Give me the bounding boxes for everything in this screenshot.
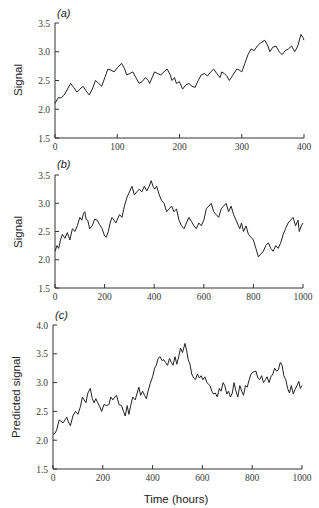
x-tick-label: 0 [53,142,58,152]
x-tick-label: 800 [246,292,261,302]
figure-canvas: (a) Signal 1.52.02.53.03.50100200300400 … [0,0,319,508]
x-tick-label: 200 [172,142,187,152]
y-tick-label: 3.0 [36,378,48,388]
panel-label: (a) [57,7,71,19]
x-tick-label: 1000 [293,473,312,483]
y-tick-label: 3.5 [38,19,50,29]
y-tick-label: 2.0 [38,255,50,265]
x-tick-label: 0 [53,292,58,302]
y-axis-title: Signal [12,64,24,96]
tick-labels: 1.52.02.53.03.54.002004006008001000 [36,321,312,484]
x-tick-label: 800 [245,473,260,483]
panel-b: (b) Signal 1.52.02.53.03.502004006008001… [12,158,313,302]
x-tick-label: 200 [97,292,112,302]
x-tick-label: 400 [145,473,160,483]
y-tick-label: 2.5 [36,407,48,417]
x-tick-label: 600 [197,292,212,302]
signal-line [55,181,303,257]
x-tick-label: 400 [147,292,162,302]
y-tick-label: 2.5 [38,227,50,237]
panel-label: (c) [55,309,68,321]
signal-line [55,35,304,104]
tick-labels: 1.52.02.53.03.50100200300400 [38,19,311,153]
y-tick-label: 1.5 [36,465,48,475]
axes [55,23,304,138]
predicted-signal-line [53,343,302,434]
axes [55,175,303,288]
x-tick-label: 600 [195,473,210,483]
panel-c: (c) Predicted signal 1.52.02.53.03.54.00… [10,309,312,483]
y-tick-label: 3.5 [38,171,50,181]
axes [53,325,302,469]
y-tick-label: 3.5 [36,349,48,359]
y-tick-label: 1.5 [38,284,50,294]
x-tick-label: 200 [96,473,111,483]
y-axis-title: Predicted signal [10,356,22,438]
x-tick-label: 0 [51,473,56,483]
y-axis-title: Signal [12,216,24,248]
x-tick-label: 400 [297,142,312,152]
x-tick-label: 300 [235,142,250,152]
y-tick-label: 2.5 [38,76,50,86]
panel-label: (b) [57,158,71,170]
x-tick-label: 100 [110,142,125,152]
y-tick-label: 3.0 [38,47,50,57]
x-axis-title: Time (hours) [144,493,209,505]
y-tick-label: 4.0 [36,321,48,331]
y-tick-label: 2.0 [36,436,48,446]
y-tick-label: 2.0 [38,105,50,115]
x-tick-label: 1000 [294,292,313,302]
y-tick-label: 1.5 [38,134,50,144]
y-tick-label: 3.0 [38,199,50,209]
panel-a: (a) Signal 1.52.02.53.03.50100200300400 [12,7,311,152]
tick-labels: 1.52.02.53.03.502004006008001000 [38,171,313,303]
